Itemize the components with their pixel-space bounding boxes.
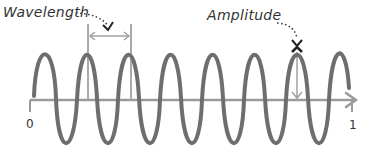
axis-start-label: 0 [26, 117, 34, 131]
wave-diagram: Wavelength Amplitude 0 1 [0, 0, 377, 165]
amplitude-label: Amplitude [207, 7, 281, 23]
axis-end-label: 1 [349, 118, 357, 132]
amplitude-leader [277, 23, 302, 52]
wavelength-label: Wavelength [3, 4, 89, 20]
sine-wave [34, 53, 349, 143]
